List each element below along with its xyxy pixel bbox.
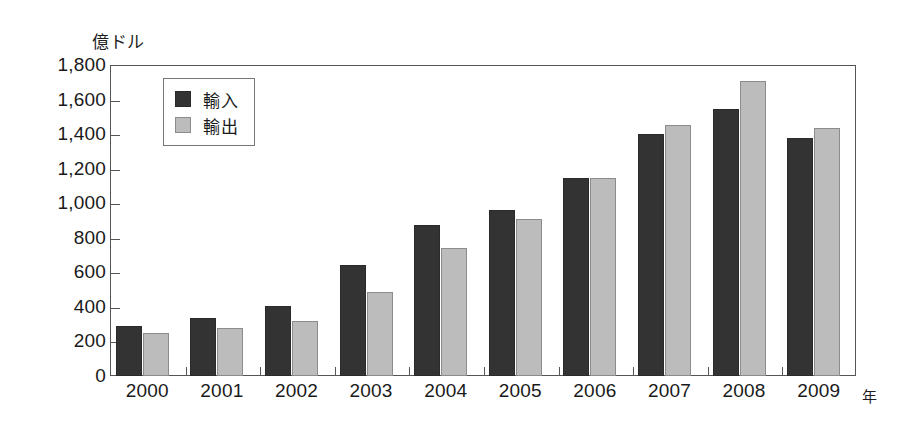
bar-chart: 億ドル 1,8001,6001,4001,2001,00080060040020… <box>0 0 916 427</box>
y-axis-tick-label: 1,200 <box>57 158 106 180</box>
y-axis-tick-label: 800 <box>74 227 106 249</box>
y-axis-tick-label: 1,000 <box>57 192 106 214</box>
legend-item-import: 輸入 <box>175 86 238 112</box>
y-axis-tick-label: 400 <box>74 296 106 318</box>
x-axis-tick-mark <box>409 367 410 375</box>
x-axis-tick-mark <box>260 367 261 375</box>
x-axis-tick-mark <box>559 367 560 375</box>
x-axis-tick-mark <box>782 367 783 375</box>
y-axis-tick-mark <box>111 204 120 205</box>
x-axis-tick-label: 2005 <box>499 380 542 402</box>
x-axis-unit-label: 年 <box>862 385 877 406</box>
x-axis-tick-label: 2006 <box>573 380 616 402</box>
y-axis-tick-mark <box>111 135 120 136</box>
y-axis-tick-label: 600 <box>74 261 106 283</box>
x-axis-tick-mark <box>186 367 187 375</box>
x-axis-tick-label: 2008 <box>723 380 766 402</box>
y-axis-tick-label: 0 <box>95 365 106 387</box>
x-axis-tick-label: 2007 <box>648 380 691 402</box>
y-axis-tick-label: 1,800 <box>57 54 106 76</box>
legend-swatch-import-icon <box>175 91 191 107</box>
y-axis-tick-label: 1,600 <box>57 89 106 111</box>
x-axis-tick-label: 2001 <box>200 380 243 402</box>
y-axis-tick-mark <box>111 101 120 102</box>
x-axis-tick-label: 2000 <box>126 380 169 402</box>
x-axis-tick-mark <box>708 367 709 375</box>
legend-label: 輸入 <box>203 87 238 112</box>
legend-item-export: 輸出 <box>175 112 238 138</box>
y-axis-tick-mark <box>111 273 120 274</box>
y-axis-tick-label: 200 <box>74 330 106 352</box>
x-axis-tick-mark <box>633 367 634 375</box>
x-axis-tick-labels: 2000200120022003200420052006200720082009 <box>110 380 856 410</box>
y-axis-tick-labels: 1,8001,6001,4001,2001,0008006004002000 <box>36 65 106 376</box>
y-axis-tick-mark <box>111 308 120 309</box>
y-axis-tick-mark <box>111 170 120 171</box>
legend-swatch-export-icon <box>175 117 191 133</box>
x-axis-tick-label: 2003 <box>350 380 393 402</box>
legend-label: 輸出 <box>203 113 238 138</box>
chart-legend: 輸入輸出 <box>163 78 255 146</box>
y-axis-tick-mark <box>111 239 120 240</box>
x-axis-tick-mark <box>335 367 336 375</box>
y-axis-unit-label: 億ドル <box>92 28 145 53</box>
x-axis-tick-mark <box>484 367 485 375</box>
y-axis-tick-label: 1,400 <box>57 123 106 145</box>
x-axis-tick-label: 2002 <box>275 380 318 402</box>
y-axis-tick-mark <box>111 342 120 343</box>
x-axis-tick-label: 2004 <box>424 380 467 402</box>
x-axis-tick-label: 2009 <box>797 380 840 402</box>
